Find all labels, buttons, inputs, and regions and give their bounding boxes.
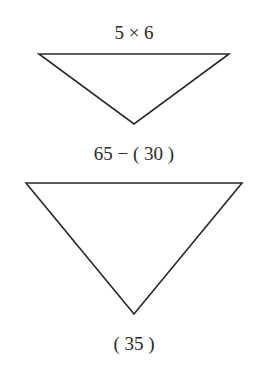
bottom-answer-label: ( 35 ) [0, 333, 258, 355]
triangles-figure [0, 0, 258, 388]
upper-inverted-triangle [39, 54, 229, 124]
middle-expression-label: 65 − ( 30 ) [0, 143, 258, 165]
lower-inverted-triangle [26, 183, 242, 314]
